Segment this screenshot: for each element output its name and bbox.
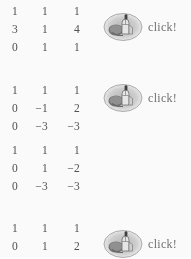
- matrix-cell: −3: [48, 117, 80, 135]
- matrix-cell: 2: [48, 237, 80, 255]
- matrix-cell: −3: [48, 177, 80, 195]
- matrix-cell: 1: [18, 20, 48, 38]
- matrix-cell: 1: [18, 81, 48, 99]
- matrix-cell: 1: [18, 141, 48, 159]
- matrix-block-4: 111 012: [0, 219, 88, 255]
- matrix-cell: −3: [18, 117, 48, 135]
- matrix-cell: 1: [48, 38, 80, 56]
- matrix-row: 111: [0, 141, 88, 159]
- click-annotation-1[interactable]: click!: [103, 12, 177, 42]
- matrix-row: 012: [0, 237, 88, 255]
- matrix-cell: 0: [0, 38, 18, 56]
- matrix-cell: 1: [18, 219, 48, 237]
- matrix-row: 111: [0, 2, 88, 20]
- matrix-row: 111: [0, 81, 88, 99]
- matrix-cell: 2: [48, 99, 80, 117]
- mouse-click-icon[interactable]: [103, 83, 143, 113]
- click-label: click!: [148, 237, 177, 252]
- matrix-block-1: 111 314 011: [0, 2, 88, 56]
- click-annotation-3[interactable]: click!: [103, 229, 177, 259]
- matrix-cell: 1: [48, 2, 80, 20]
- matrix-block-2: 111 0−12 0−3−3: [0, 81, 88, 135]
- matrix-cell: 1: [0, 141, 18, 159]
- matrix-cell: 1: [0, 219, 18, 237]
- matrix-row: 0−12: [0, 99, 88, 117]
- matrix-row: 0−3−3: [0, 117, 88, 135]
- click-label: click!: [148, 20, 177, 35]
- matrix-cell: 1: [0, 81, 18, 99]
- matrix-cell: 0: [0, 99, 18, 117]
- matrix-cell: 0: [0, 177, 18, 195]
- matrix-cell: 0: [0, 159, 18, 177]
- matrix-cell: 3: [0, 20, 18, 38]
- matrix-cell: 1: [48, 81, 80, 99]
- matrix-row: 011: [0, 38, 88, 56]
- matrix-row: 0−3−3: [0, 177, 88, 195]
- matrix-row: 01−2: [0, 159, 88, 177]
- matrix-cell: 1: [18, 159, 48, 177]
- click-label: click!: [148, 91, 177, 106]
- matrix-cell: −1: [18, 99, 48, 117]
- matrix-cell: 1: [18, 2, 48, 20]
- mouse-click-icon[interactable]: [103, 229, 143, 259]
- matrix-cell: 1: [18, 237, 48, 255]
- click-annotation-2[interactable]: click!: [103, 83, 177, 113]
- matrix-cell: 1: [0, 2, 18, 20]
- matrix-cell: 0: [0, 237, 18, 255]
- matrix-cell: −2: [48, 159, 80, 177]
- matrix-cell: 1: [48, 219, 80, 237]
- matrix-row: 314: [0, 20, 88, 38]
- matrix-row: 111: [0, 219, 88, 237]
- mouse-click-icon[interactable]: [103, 12, 143, 42]
- matrix-cell: −3: [18, 177, 48, 195]
- matrix-cell: 1: [48, 141, 80, 159]
- matrix-cell: 1: [18, 38, 48, 56]
- matrix-cell: 4: [48, 20, 80, 38]
- matrix-cell: 0: [0, 117, 18, 135]
- matrix-block-3: 111 01−2 0−3−3: [0, 141, 88, 195]
